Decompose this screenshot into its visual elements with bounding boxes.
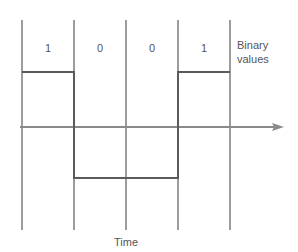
binary-values-label-line2: values (237, 53, 269, 65)
binary-signal-diagram (0, 0, 298, 252)
time-axis-label: Time (114, 236, 138, 248)
binary-values-label-line1: Binary (237, 39, 268, 51)
bit-value-2: 0 (90, 42, 110, 54)
bit-value-4: 1 (194, 42, 214, 54)
bit-value-3: 0 (142, 42, 162, 54)
time-axis (20, 123, 284, 131)
bit-value-1: 1 (38, 42, 58, 54)
